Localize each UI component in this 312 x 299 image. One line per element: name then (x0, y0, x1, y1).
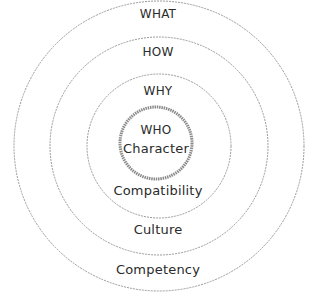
label-competency: Competency (0, 262, 312, 277)
label-compatibility: Compatibility (0, 183, 312, 198)
label-who: WHO (0, 123, 312, 137)
label-character: Character (0, 141, 312, 156)
label-why: WHY (0, 84, 312, 98)
label-how: HOW (0, 45, 312, 59)
label-what: WHAT (0, 7, 312, 21)
label-culture: Culture (0, 222, 312, 237)
